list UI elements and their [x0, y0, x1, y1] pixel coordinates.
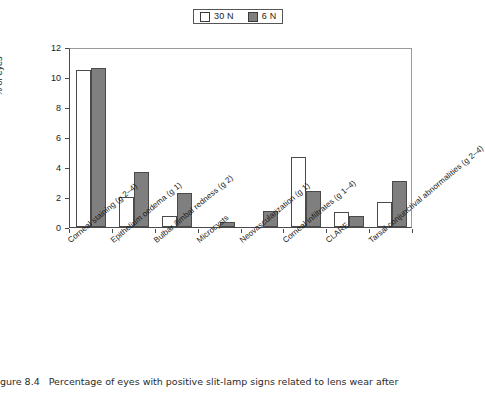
bar-6n: [349, 216, 364, 227]
y-tick-label: 8: [41, 104, 61, 113]
x-tick-mark: [198, 229, 199, 233]
y-tick-label: 4: [41, 164, 61, 173]
legend-entry-6n: 6 N: [248, 12, 277, 22]
figure-caption: gure 8.4Percentage of eyes with positive…: [0, 376, 425, 388]
white-square-icon: [200, 12, 210, 22]
x-tick-mark: [412, 229, 413, 233]
bar-6n: [91, 68, 106, 227]
x-tick-mark: [283, 229, 284, 233]
figure-number: gure 8.4: [0, 376, 40, 387]
bar-group: [377, 49, 407, 227]
legend-entry-30n: 30 N: [200, 12, 234, 22]
bar-group: [76, 49, 106, 227]
y-tick-label: 10: [41, 74, 61, 83]
y-tick-label: 2: [41, 194, 61, 203]
chart-legend: 30 N 6 N: [193, 9, 283, 24]
y-tick-label: 6: [41, 134, 61, 143]
figure-caption-text: Percentage of eyes with positive slit-la…: [49, 376, 399, 387]
y-axis-title: % of eyes: [0, 56, 4, 96]
legend-label-30n: 30 N: [214, 12, 234, 21]
x-tick-mark: [369, 229, 370, 233]
x-tick-mark: [155, 229, 156, 233]
y-tick-label: 0: [41, 224, 61, 233]
x-tick-mark: [112, 229, 113, 233]
gray-square-icon: [248, 12, 258, 22]
x-tick-mark: [69, 229, 70, 233]
legend-label-6n: 6 N: [262, 12, 277, 21]
bar-group: [248, 49, 278, 227]
x-tick-mark: [241, 229, 242, 233]
y-tick-label: 12: [41, 44, 61, 53]
x-tick-mark: [326, 229, 327, 233]
bar-30n: [76, 70, 91, 228]
